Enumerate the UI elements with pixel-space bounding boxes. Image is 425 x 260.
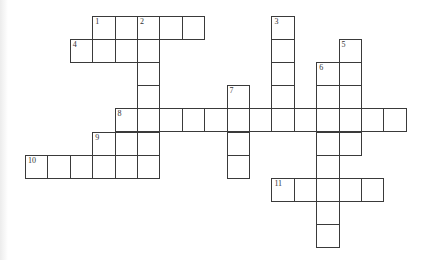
crossword-cell[interactable]: 7	[227, 85, 250, 109]
crossword-cell[interactable]	[182, 16, 205, 40]
crossword-cell[interactable]	[47, 155, 70, 179]
crossword-cell[interactable]	[271, 85, 294, 109]
crossword-cell[interactable]: 4	[70, 39, 93, 63]
crossword-cell[interactable]	[70, 155, 93, 179]
crossword-cell[interactable]	[383, 108, 406, 132]
crossword-cell[interactable]	[316, 132, 339, 156]
crossword-cell[interactable]	[115, 155, 138, 179]
crossword-cell[interactable]	[316, 178, 339, 202]
crossword-cell[interactable]	[137, 108, 160, 132]
crossword-cell[interactable]	[115, 16, 138, 40]
crossword-cell[interactable]: 11	[271, 178, 294, 202]
crossword-cell[interactable]	[204, 108, 227, 132]
crossword-cell[interactable]	[227, 155, 250, 179]
clue-number: 5	[342, 40, 346, 49]
clue-number: 10	[28, 156, 36, 165]
clue-number: 11	[274, 179, 282, 188]
crossword-cell[interactable]	[115, 132, 138, 156]
clue-number: 1	[95, 17, 99, 26]
crossword-cell[interactable]	[361, 178, 384, 202]
clue-number: 9	[95, 133, 99, 142]
crossword-cell[interactable]	[137, 132, 160, 156]
crossword-cell[interactable]	[294, 108, 317, 132]
crossword-cell[interactable]: 6	[316, 62, 339, 86]
crossword-cell[interactable]	[271, 39, 294, 63]
crossword-cell[interactable]	[339, 85, 362, 109]
crossword-cell[interactable]: 2	[137, 16, 160, 40]
clue-number: 8	[118, 109, 122, 118]
crossword-cell[interactable]	[316, 108, 339, 132]
crossword-cell[interactable]	[227, 132, 250, 156]
crossword-cell[interactable]	[339, 108, 362, 132]
crossword-cell[interactable]	[182, 108, 205, 132]
crossword-cell[interactable]	[316, 224, 339, 248]
clue-number: 3	[274, 17, 278, 26]
crossword-cell[interactable]	[294, 178, 317, 202]
crossword-cell[interactable]	[137, 39, 160, 63]
crossword-cell[interactable]	[92, 155, 115, 179]
crossword-cell[interactable]	[316, 201, 339, 225]
crossword-cell[interactable]: 1	[92, 16, 115, 40]
crossword-cell[interactable]: 10	[25, 155, 48, 179]
crossword-cell[interactable]	[361, 108, 384, 132]
crossword-cell[interactable]	[115, 39, 138, 63]
crossword-cell[interactable]	[227, 108, 250, 132]
crossword-cell[interactable]	[92, 39, 115, 63]
crossword-cell[interactable]	[316, 155, 339, 179]
clue-number: 7	[230, 86, 234, 95]
crossword-cell[interactable]	[137, 85, 160, 109]
crossword-cell[interactable]: 9	[92, 132, 115, 156]
clue-number: 6	[319, 63, 323, 72]
clue-number: 4	[73, 40, 77, 49]
crossword-cell[interactable]	[249, 108, 272, 132]
crossword-cell[interactable]	[159, 108, 182, 132]
crossword-cell[interactable]	[137, 62, 160, 86]
crossword-cell[interactable]	[271, 62, 294, 86]
crossword-cell[interactable]: 3	[271, 16, 294, 40]
crossword-grid: 1234567891011	[0, 0, 425, 260]
crossword-cell[interactable]	[339, 132, 362, 156]
clue-number: 2	[140, 17, 144, 26]
crossword-cell[interactable]	[159, 16, 182, 40]
crossword-cell[interactable]	[339, 62, 362, 86]
crossword-cell[interactable]: 5	[339, 39, 362, 63]
crossword-cell[interactable]	[316, 85, 339, 109]
crossword-cell[interactable]	[339, 178, 362, 202]
crossword-cell[interactable]	[137, 155, 160, 179]
crossword-cell[interactable]: 8	[115, 108, 138, 132]
crossword-cell[interactable]	[271, 108, 294, 132]
